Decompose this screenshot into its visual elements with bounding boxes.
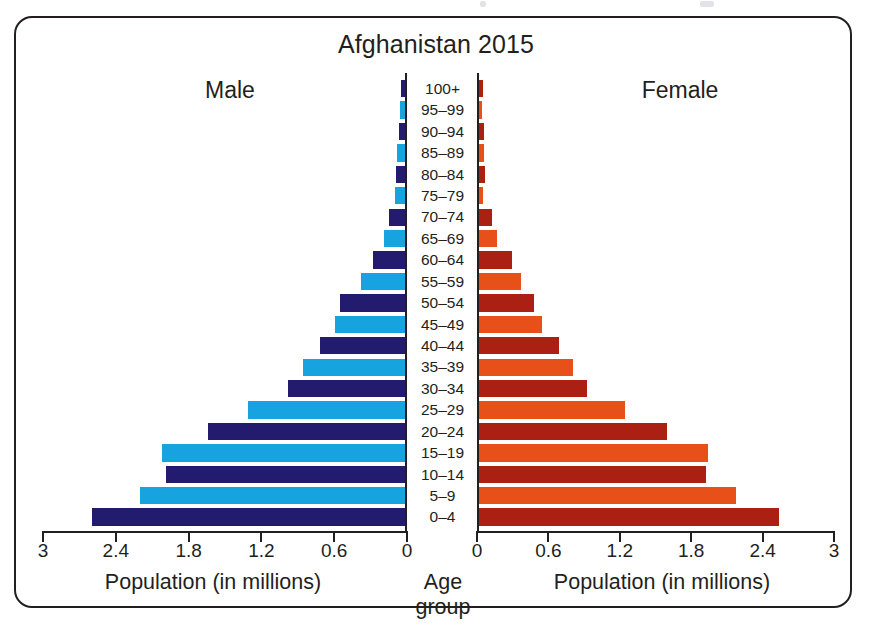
bar-row [478,421,834,442]
bar-row [478,378,834,399]
bar-row [478,185,834,206]
bar-row [43,78,407,99]
bar-row [43,121,407,142]
bar-row [478,485,834,506]
female-bar-10–14 [478,466,706,483]
age-group-label: 90–94 [407,121,478,142]
female-bar-70–74 [478,209,492,226]
male-bar-65–69 [384,230,407,247]
population-pyramid-figure: Afghanistan 2015 Male Female 100+95–9990… [0,0,872,624]
axis-tick-label: 1.8 [175,540,201,562]
bar-row [43,442,407,463]
female-bars-panel [478,78,834,528]
male-bar-60–64 [373,251,407,268]
male-bar-40–44 [320,337,407,354]
bar-row [478,78,834,99]
bar-row [478,356,834,377]
age-group-label: 20–24 [407,421,478,442]
age-group-label: 100+ [407,78,478,99]
age-group-label: 0–4 [407,506,478,527]
female-bar-60–64 [478,251,512,268]
male-bar-15–19 [162,444,407,461]
bar-row [478,271,834,292]
bar-row [478,335,834,356]
bar-row [478,121,834,142]
male-bar-45–49 [335,316,407,333]
axis-tick-label: 0.6 [535,540,561,562]
age-group-label: 30–34 [407,378,478,399]
female-value-axis [477,531,834,533]
bar-row [43,399,407,420]
axis-tick-label: 1.8 [678,540,704,562]
age-group-label: 40–44 [407,335,478,356]
bar-row [478,464,834,485]
age-group-label: 50–54 [407,292,478,313]
bar-row [43,271,407,292]
bar-row [43,185,407,206]
axis-tick-label: 1.2 [607,540,633,562]
axis-tick-label: 1.2 [248,540,274,562]
male-value-axis [43,531,407,533]
female-bar-35–39 [478,359,573,376]
age-group-label: 75–79 [407,185,478,206]
female-bar-rows [478,78,834,528]
female-bar-40–44 [478,337,559,354]
male-axis-title: Population (in millions) [28,570,398,595]
female-bar-45–49 [478,316,542,333]
age-group-label: 5–9 [407,485,478,506]
age-group-label: 60–64 [407,249,478,270]
bar-row [43,464,407,485]
age-group-axis-title: Age group [395,570,491,620]
bar-row [478,506,834,527]
age-group-label: 55–59 [407,271,478,292]
bar-row [43,142,407,163]
age-group-label: 70–74 [407,207,478,228]
female-bar-55–59 [478,273,521,290]
female-bar-0–4 [478,508,779,525]
axis-tick-label: 2.4 [103,540,129,562]
bar-row [43,335,407,356]
axis-tick-label: 0 [472,540,483,562]
female-bar-15–19 [478,444,708,461]
female-bar-20–24 [478,423,667,440]
age-group-label: 15–19 [407,442,478,463]
male-bar-rows [43,78,407,528]
bar-row [478,228,834,249]
male-bar-30–34 [288,380,407,397]
age-group-label: 25–29 [407,399,478,420]
male-bar-5–9 [140,487,407,504]
male-bar-20–24 [208,423,407,440]
age-group-label: 10–14 [407,464,478,485]
bar-row [478,142,834,163]
bar-row [43,228,407,249]
male-bar-35–39 [303,359,407,376]
axis-tick-label: 2.4 [749,540,775,562]
bar-row [43,356,407,377]
bar-row [43,292,407,313]
axis-tick-label: 3 [38,540,49,562]
age-group-label: 85–89 [407,142,478,163]
bar-row [43,378,407,399]
male-bars-panel [43,78,407,528]
bar-row [43,207,407,228]
bar-row [43,314,407,335]
female-bar-80–84 [478,166,485,183]
bar-row [43,99,407,120]
age-group-label: 35–39 [407,356,478,377]
axis-tick-label: 3 [829,540,840,562]
female-bar-65–69 [478,230,497,247]
bar-row [43,421,407,442]
female-bar-5–9 [478,487,736,504]
male-axis-tick-labels: 32.41.81.20.60 [43,540,407,566]
axis-tick-label: 0 [402,540,413,562]
male-bar-50–54 [340,294,407,311]
bar-row [43,164,407,185]
page-scan-artifact [0,0,872,10]
bar-row [43,485,407,506]
bar-row [478,207,834,228]
bar-row [478,292,834,313]
bar-row [478,164,834,185]
axis-tick-label: 0.6 [321,540,347,562]
male-bar-55–59 [361,273,407,290]
female-bar-30–34 [478,380,587,397]
